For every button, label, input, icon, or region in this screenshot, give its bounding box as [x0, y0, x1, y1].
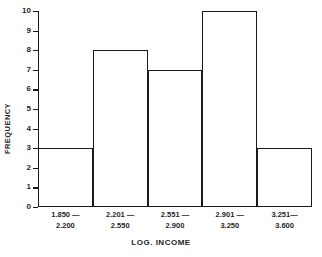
x-tick-label-lower: 2.201 — — [93, 210, 148, 221]
histogram-bar — [38, 148, 93, 207]
x-tick-label-upper: 3.250 — [202, 221, 257, 232]
y-axis-title: FREQUENCY — [1, 78, 15, 178]
x-tick-label: 2.551 —2.900 — [148, 210, 203, 231]
histogram-bar — [148, 70, 203, 207]
x-tick-label: 3.251—3.600 — [257, 210, 312, 231]
x-axis-title: LOG. INCOME — [0, 238, 322, 247]
y-tick-mark — [33, 11, 38, 12]
x-tick-label-upper: 2.550 — [93, 221, 148, 232]
x-tick-label-upper: 3.600 — [257, 221, 312, 232]
y-tick-label: 1 — [27, 183, 31, 191]
x-tick-label: 2.201 —2.550 — [93, 210, 148, 231]
y-tick-label: 3 — [27, 144, 31, 152]
y-tick-label: 8 — [27, 46, 31, 54]
y-tick-mark — [33, 129, 38, 130]
x-tick-label-upper: 2.200 — [38, 221, 93, 232]
x-tick-label-lower: 1.850 — — [38, 210, 93, 221]
y-tick-mark — [33, 89, 38, 90]
y-tick-label: 5 — [27, 105, 31, 113]
x-tick-label-lower: 2.551 — — [148, 210, 203, 221]
y-tick-mark — [33, 70, 38, 71]
y-tick-mark — [33, 50, 38, 51]
y-tick-label: 7 — [27, 66, 31, 74]
x-tick-label-upper: 2.900 — [148, 221, 203, 232]
y-axis-title-text: FREQUENCY — [4, 102, 13, 153]
y-tick-label: 10 — [22, 7, 31, 15]
x-tick-label-lower: 2.901 — — [202, 210, 257, 221]
y-tick-mark — [33, 109, 38, 110]
y-tick-label: 4 — [27, 125, 31, 133]
y-tick-label: 2 — [27, 164, 31, 172]
x-axis-tick-labels: 1.850 —2.2002.201 —2.5502.551 —2.9002.90… — [38, 210, 312, 234]
histogram-bar — [93, 50, 148, 207]
y-tick-mark — [33, 31, 38, 32]
x-tick-label: 1.850 —2.200 — [38, 210, 93, 231]
plot-area: 012345678910 — [38, 11, 312, 207]
y-tick-label: 0 — [27, 203, 31, 211]
y-tick-label: 6 — [27, 85, 31, 93]
y-tick-mark — [33, 207, 38, 208]
y-tick-label: 9 — [27, 27, 31, 35]
x-axis-line — [38, 206, 312, 207]
histogram-bar — [257, 148, 312, 207]
histogram-chart: FREQUENCY 012345678910 1.850 —2.2002.201… — [0, 0, 322, 257]
histogram-bar — [202, 11, 257, 207]
x-tick-label-lower: 3.251— — [257, 210, 312, 221]
x-tick-label: 2.901 —3.250 — [202, 210, 257, 231]
